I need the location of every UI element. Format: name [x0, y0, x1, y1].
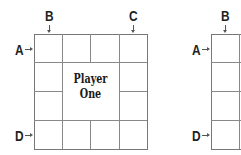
marker-b-arrow-icon — [225, 25, 226, 31]
marker-a-label: A — [192, 43, 201, 57]
marker-a-arrow-icon — [25, 49, 31, 50]
marker-d-arrow-icon — [202, 135, 208, 136]
marker-d-label: D — [192, 129, 201, 143]
marker-a-arrow-icon — [202, 49, 208, 50]
grid-line — [34, 62, 147, 63]
grid-line — [90, 34, 91, 62]
grid-line — [34, 91, 62, 92]
grid-line — [90, 120, 91, 149]
marker-a-label: A — [15, 43, 24, 57]
grid-line — [239, 34, 240, 149]
marker-c-arrow-icon — [133, 25, 134, 31]
board-two-frame — [211, 34, 241, 150]
grid-line — [211, 62, 241, 63]
grid-line — [211, 91, 241, 92]
marker-d-label: D — [15, 129, 24, 143]
marker-d-arrow-icon — [25, 135, 31, 136]
grid-line — [119, 34, 120, 149]
grid-line — [211, 120, 241, 121]
player-label-line1: Player — [68, 72, 114, 86]
grid-line — [62, 34, 63, 149]
player-label-line2: One — [68, 87, 114, 101]
grid-line — [119, 91, 147, 92]
marker-b-arrow-icon — [49, 25, 50, 31]
marker-b-label: B — [45, 9, 54, 23]
marker-c-label: C — [129, 9, 138, 23]
marker-b-label: B — [221, 9, 230, 23]
